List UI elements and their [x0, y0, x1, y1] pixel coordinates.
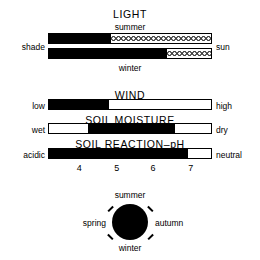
stipple-dot — [131, 36, 136, 41]
light-right-label-sun: sun — [216, 42, 230, 52]
segment-stippled — [167, 49, 211, 58]
stipple-dot — [201, 36, 206, 41]
bar-light-winter — [48, 48, 212, 59]
segment-black — [49, 49, 167, 58]
season-label-spring: spring — [58, 218, 106, 228]
stipple-dot — [171, 36, 176, 41]
segment-stippled — [111, 34, 211, 43]
bar-soil-reaction-ph — [48, 148, 212, 159]
dial-notch-nw-icon — [107, 206, 113, 212]
stipple-dot — [181, 36, 186, 41]
season-label-summer: summer — [112, 190, 148, 200]
stipple-dot — [166, 36, 171, 41]
ph-tick-label: 6 — [150, 163, 155, 173]
light-left-label-shade: shade — [22, 42, 45, 52]
light-bottom-label-winter: winter — [0, 63, 260, 73]
stipple-dot — [126, 36, 131, 41]
segment-white — [109, 100, 211, 109]
segment-black — [49, 100, 109, 109]
stipple-dot — [111, 36, 116, 41]
segment-white — [49, 124, 88, 133]
ph-tick-label: 4 — [77, 163, 82, 173]
stipple-dot — [207, 51, 212, 56]
stipple-dot — [191, 36, 196, 41]
stipple-dot — [186, 36, 191, 41]
stipple-dot — [156, 36, 161, 41]
wind-left-label-low: low — [32, 101, 45, 111]
season-label-autumn: autumn — [155, 218, 207, 228]
stipple-dot — [196, 36, 201, 41]
bar-soil-moisture — [48, 123, 212, 134]
stipple-dot — [206, 36, 211, 41]
stipple-dot — [136, 36, 141, 41]
segment-white — [175, 124, 211, 133]
ph-tick-label: 5 — [114, 163, 119, 173]
soil-moisture-right-label-dry: dry — [216, 125, 228, 135]
segment-black — [88, 124, 175, 133]
segment-black — [49, 149, 188, 158]
segment-black — [49, 34, 111, 43]
stipple-dot — [116, 36, 121, 41]
dial-notch-ne-icon — [147, 206, 153, 212]
light-top-label-summer: summer — [0, 22, 260, 32]
soil-moisture-left-label-wet: wet — [32, 125, 45, 135]
ecology-indicator-figure: LIGHT summer shade sun — [0, 0, 260, 260]
soil-reaction-left-label-acidic: acidic — [23, 150, 45, 160]
stipple-dot — [121, 36, 126, 41]
soil-reaction-right-label-neutral: neutral — [216, 150, 242, 160]
segment-white — [188, 149, 211, 158]
bar-light-summer — [48, 33, 212, 44]
season-label-winter: winter — [112, 243, 148, 253]
ph-scale-axis: 4 5 6 7 — [48, 163, 212, 177]
wind-right-label-high: high — [216, 101, 232, 111]
stipple-dot — [161, 36, 166, 41]
stipple-dot — [176, 36, 181, 41]
ph-tick-label: 7 — [188, 163, 193, 173]
section-title-light: LIGHT — [0, 8, 260, 20]
stipple-dot — [151, 36, 156, 41]
season-dial-group: summer spring autumn winter — [0, 190, 260, 260]
dial-notch-sw-icon — [107, 234, 113, 240]
stipple-dot — [146, 36, 151, 41]
stipple-dot — [141, 36, 146, 41]
dial-notch-se-icon — [147, 234, 153, 240]
stipple-dot — [211, 36, 212, 41]
bar-wind — [48, 99, 212, 110]
season-dial-disc — [112, 204, 148, 240]
